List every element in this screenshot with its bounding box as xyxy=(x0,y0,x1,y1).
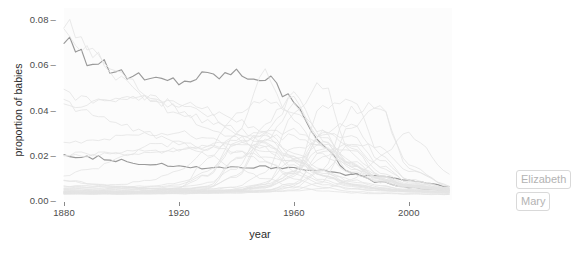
plot-panel: Elizabeth Mary xyxy=(64,8,452,200)
series-lines xyxy=(64,8,452,200)
x-tick-label: 1920 xyxy=(168,207,190,218)
chart-title xyxy=(64,0,452,9)
series-label-mary[interactable]: Mary xyxy=(516,192,550,211)
y-tick-label: 0.02– xyxy=(30,149,56,160)
x-axis-title: year xyxy=(0,228,520,240)
x-tick-label: 1880 xyxy=(53,207,75,218)
y-tick-label: 0.04– xyxy=(30,104,56,115)
x-tick-mark xyxy=(179,202,180,206)
y-tick-label: 0.00– xyxy=(30,195,56,206)
series-line xyxy=(64,29,449,193)
x-tick-mark xyxy=(294,202,295,206)
series-line xyxy=(64,37,449,191)
y-tick-label: 0.06– xyxy=(30,59,56,70)
x-tick-mark xyxy=(409,202,410,206)
series-label-elizabeth[interactable]: Elizabeth xyxy=(516,170,571,189)
series-line xyxy=(64,19,449,192)
y-axis-title: proportion of babies xyxy=(12,20,24,200)
x-tick-label: 1960 xyxy=(283,207,305,218)
y-tick-label: 0.08– xyxy=(30,14,56,25)
x-tick-label: 2000 xyxy=(398,207,420,218)
x-tick-mark xyxy=(64,202,65,206)
